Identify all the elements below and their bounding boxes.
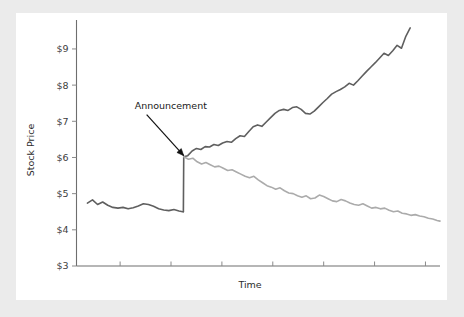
y-axis-tick-label: $6 — [56, 152, 68, 163]
x-axis-title: Time — [237, 279, 261, 290]
chart-figure: $3$4$5$6$7$8$9TimeStock PriceAnnouncemen… — [0, 0, 464, 317]
announcement-annotation-label: Announcement — [135, 100, 208, 111]
y-axis-tick-label: $5 — [56, 188, 68, 199]
y-axis-tick-label: $4 — [56, 224, 68, 235]
y-axis-title: Stock Price — [25, 124, 36, 177]
series-line-good-news-path — [184, 28, 410, 157]
y-axis-tick-label: $8 — [56, 80, 68, 91]
y-axis-tick-label: $3 — [56, 260, 68, 271]
announcement-arrow — [147, 115, 184, 156]
stock-price-line-chart: $3$4$5$6$7$8$9TimeStock PriceAnnouncemen… — [0, 0, 464, 317]
y-axis-tick-label: $9 — [56, 43, 68, 54]
y-axis-tick-label: $7 — [56, 116, 68, 127]
series-line-pre-announcement — [87, 200, 183, 212]
series-line-bad-news-path — [184, 157, 440, 221]
